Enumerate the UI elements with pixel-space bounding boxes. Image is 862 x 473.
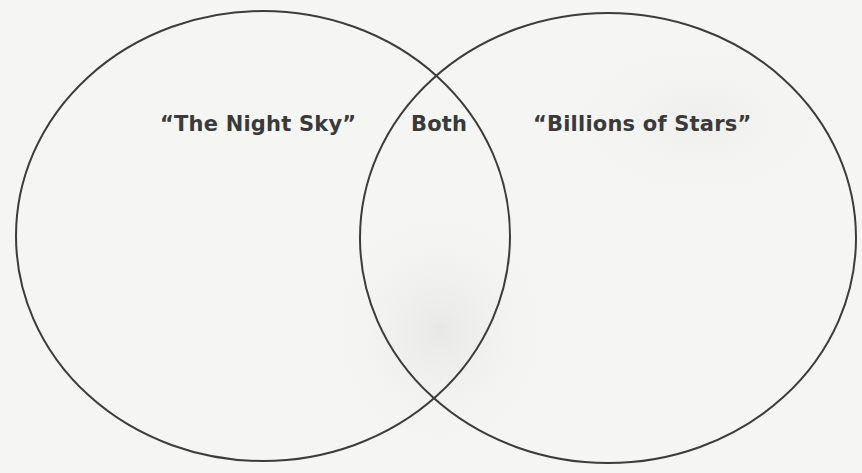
left-set-label: “The Night Sky” [160, 114, 356, 135]
right-set-circle [360, 13, 856, 463]
venn-diagram-page: “The Night Sky” Both “Billions of Stars” [0, 0, 862, 473]
intersection-label: Both [411, 114, 467, 135]
left-set-circle [16, 11, 510, 461]
right-set-label: “Billions of Stars” [533, 114, 751, 135]
venn-shapes [0, 0, 862, 473]
